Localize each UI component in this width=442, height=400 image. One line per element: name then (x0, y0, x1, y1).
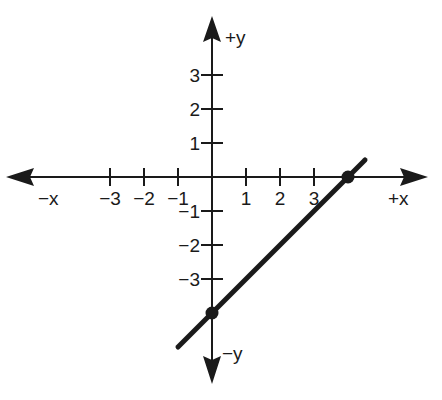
y-axis-neg-arrow-icon (203, 356, 221, 384)
x-neg-label: −x (38, 188, 59, 209)
x-tick-label: 2 (275, 188, 286, 209)
x-tick-label: 1 (241, 188, 252, 209)
y-neg-label: −y (222, 343, 243, 364)
coordinate-plane: −3−2−1123−3−2−1123 −x +x +y −y (0, 0, 442, 400)
data-line (178, 160, 365, 347)
y-tick-label: −3 (178, 269, 200, 290)
y-tick-label: −1 (178, 201, 200, 222)
y-tick-label: 2 (189, 99, 200, 120)
y-tick-label: 3 (189, 65, 200, 86)
y-tick-label: 1 (189, 133, 200, 154)
y-tick-label: −2 (178, 235, 200, 256)
x-pos-label: +x (388, 188, 409, 209)
x-tick-label: −3 (99, 188, 121, 209)
data-point (342, 171, 355, 184)
x-axis-pos-arrow-icon (400, 168, 428, 186)
y-pos-label: +y (225, 27, 246, 48)
line-series (178, 160, 365, 347)
x-axis-neg-arrow-icon (6, 168, 34, 186)
data-point (206, 307, 219, 320)
x-tick-label: −2 (133, 188, 155, 209)
